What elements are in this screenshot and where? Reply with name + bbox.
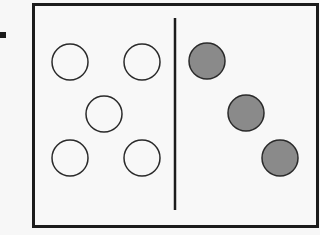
filled-circle [189,43,225,79]
open-circle [124,44,160,80]
open-circle [52,44,88,80]
open-circle [124,140,160,176]
open-circle [86,96,122,132]
filled-circle [262,140,298,176]
diagram-canvas [0,0,320,235]
open-circle-group [52,44,160,176]
filled-circle [228,95,264,131]
filled-circle-group [189,43,298,176]
open-circle [52,140,88,176]
